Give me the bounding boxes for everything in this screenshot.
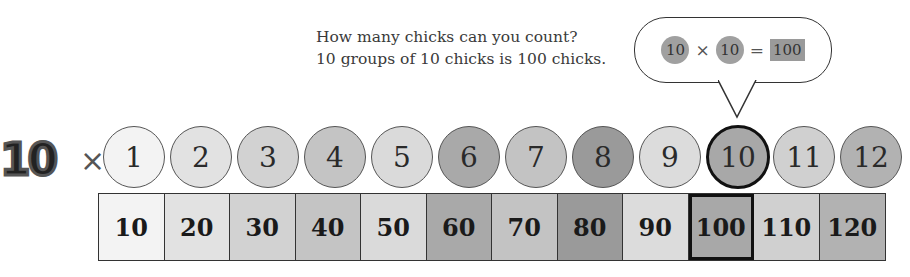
equation-result: 100 xyxy=(770,39,805,61)
product-cell: 120 xyxy=(820,194,886,260)
equation-times-sign: × xyxy=(695,40,709,60)
multiplier-label: 10 xyxy=(0,138,55,182)
factor-circle: 10 xyxy=(706,125,770,189)
product-cell: 100 xyxy=(689,194,755,260)
factor-circle: 11 xyxy=(773,126,835,188)
equation-left-factor: 10 xyxy=(661,36,689,64)
factor-circle: 6 xyxy=(438,126,500,188)
product-cell: 90 xyxy=(623,194,689,260)
factor-circle: 9 xyxy=(639,126,701,188)
factor-circle: 4 xyxy=(304,126,366,188)
equation-right-factor: 10 xyxy=(716,36,744,64)
caption-answer: 10 groups of 10 chicks is 100 chicks. xyxy=(316,48,606,70)
product-cell: 60 xyxy=(427,194,493,260)
factor-circle: 5 xyxy=(371,126,433,188)
caption: How many chicks can you count? 10 groups… xyxy=(316,26,606,70)
product-cell: 10 xyxy=(99,194,165,260)
factor-circle: 7 xyxy=(505,126,567,188)
equation-equals-sign: = xyxy=(750,40,764,60)
product-cell: 40 xyxy=(296,194,362,260)
product-cell: 30 xyxy=(230,194,296,260)
product-cell: 20 xyxy=(165,194,231,260)
factor-circle: 3 xyxy=(237,126,299,188)
factor-circle: 8 xyxy=(572,126,634,188)
product-row: 102030405060708090100110120 xyxy=(98,193,886,261)
product-cell: 80 xyxy=(558,194,624,260)
caption-question: How many chicks can you count? xyxy=(316,26,606,48)
equation: 10 × 10 = 100 xyxy=(635,18,831,82)
times-sign: × xyxy=(80,143,105,178)
product-cell: 110 xyxy=(754,194,820,260)
product-cell: 70 xyxy=(492,194,558,260)
speech-bubble: 10 × 10 = 100 xyxy=(634,17,832,83)
factor-circle: 12 xyxy=(840,126,902,188)
factor-circle: 2 xyxy=(170,126,232,188)
product-cell: 50 xyxy=(361,194,427,260)
factor-circle: 1 xyxy=(103,126,165,188)
